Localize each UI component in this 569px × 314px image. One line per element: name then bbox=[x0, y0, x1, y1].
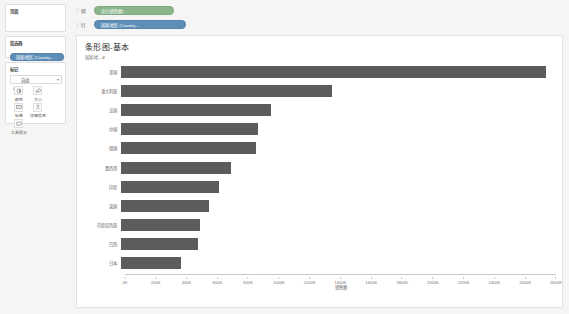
bar-row[interactable]: 法国 bbox=[77, 100, 562, 119]
bar-track bbox=[121, 100, 562, 119]
bar-row-label: 英国 bbox=[77, 203, 121, 209]
bar-row-label: 印度尼西亚 bbox=[77, 222, 121, 228]
color-palette-icon bbox=[14, 86, 23, 95]
rows-shelf-slot[interactable]: 国家/地区 (Country… bbox=[94, 20, 569, 29]
bar[interactable] bbox=[121, 123, 258, 135]
x-axis-tick: 0K bbox=[122, 275, 127, 285]
bar-row[interactable]: 中国 bbox=[77, 120, 562, 139]
bar[interactable] bbox=[121, 162, 231, 174]
filters-card: 筛选器 国家/地区 (Country… bbox=[5, 36, 66, 58]
marks-card: 标记 自动 ▾ 颜色 大小 bbox=[5, 62, 66, 124]
x-axis-tick: 1800K bbox=[396, 275, 408, 285]
bar-row-label: 澳大利亚 bbox=[77, 88, 121, 94]
x-axis-tick: 600K bbox=[213, 275, 223, 285]
bar-row-label: 德国 bbox=[77, 145, 121, 151]
marks-button-detail[interactable]: 详细信息 bbox=[28, 103, 47, 119]
x-axis-tick: 1600K bbox=[365, 275, 377, 285]
marks-button-label-label: 标签 bbox=[15, 112, 23, 118]
x-axis-tick: 2400K bbox=[489, 275, 501, 285]
columns-shelf-text: 列 bbox=[81, 8, 86, 14]
y-axis-header: 国家/地…₽ bbox=[77, 52, 562, 60]
x-axis-tick: 1000K bbox=[273, 275, 285, 285]
pill-country-region[interactable]: 国家/地区 (Country… bbox=[94, 20, 186, 29]
bar[interactable] bbox=[121, 85, 332, 97]
chevron-down-icon[interactable]: ▾ bbox=[57, 77, 59, 82]
size-icon bbox=[33, 86, 42, 95]
bar[interactable] bbox=[121, 142, 256, 154]
marks-button-color[interactable]: 颜色 bbox=[9, 86, 28, 102]
bar-track bbox=[121, 216, 562, 235]
visualization-pane[interactable]: 条形图-基本 国家/地…₽ 美国澳大利亚法国中国德国墨西哥印度英国印度尼西亚巴西… bbox=[76, 35, 563, 308]
bar-track bbox=[121, 139, 562, 158]
bar-row[interactable]: 澳大利亚 bbox=[77, 81, 562, 100]
x-axis-tick: 400K bbox=[182, 275, 192, 285]
x-axis-title: 销售额 bbox=[335, 284, 347, 290]
grip-icon bbox=[76, 22, 79, 27]
columns-shelf[interactable]: 列 总计(销售额) bbox=[76, 5, 569, 16]
bar[interactable] bbox=[121, 238, 198, 250]
pages-card: 页面 bbox=[5, 4, 66, 32]
x-axis-tick: 800K bbox=[243, 275, 253, 285]
marks-button-size[interactable]: 大小 bbox=[28, 86, 47, 102]
x-axis: 0K200K400K600K800K1000K1200K1400K1600K18… bbox=[125, 274, 556, 295]
bar-row-label: 日本 bbox=[77, 260, 121, 266]
x-axis-tick: 2600K bbox=[519, 275, 531, 285]
filter-pill-country[interactable]: 国家/地区 (Country… bbox=[10, 53, 64, 61]
grip-icon bbox=[76, 8, 79, 13]
marks-button-tooltip[interactable]: 工具提示 bbox=[9, 119, 28, 135]
bar-track bbox=[121, 81, 562, 100]
bar[interactable] bbox=[121, 104, 271, 116]
rows-shelf[interactable]: 行 国家/地区 (Country… bbox=[76, 19, 569, 30]
marks-button-label[interactable]: 标签 bbox=[9, 103, 28, 119]
bar-row[interactable]: 墨西哥 bbox=[77, 158, 562, 177]
columns-shelf-slot[interactable]: 总计(销售额) bbox=[94, 6, 569, 15]
marks-buttons: 颜色 大小 标签 详细 bbox=[6, 84, 65, 136]
bar-row-label: 美国 bbox=[77, 69, 121, 75]
x-axis-tick: 2800K bbox=[550, 275, 562, 285]
bar-track bbox=[121, 158, 562, 177]
bar-track bbox=[121, 177, 562, 196]
bar[interactable] bbox=[121, 66, 546, 78]
bar-track bbox=[121, 254, 562, 273]
label-icon bbox=[14, 103, 23, 112]
marks-button-detail-label: 详细信息 bbox=[30, 112, 46, 118]
bar-track bbox=[121, 196, 562, 215]
bar-row[interactable]: 印度尼西亚 bbox=[77, 216, 562, 235]
bar[interactable] bbox=[121, 181, 219, 193]
pill-sum-sales[interactable]: 总计(销售额) bbox=[94, 6, 174, 15]
bar[interactable] bbox=[121, 219, 200, 231]
marks-card-title: 标记 bbox=[6, 63, 65, 73]
bar-row-label: 中国 bbox=[77, 126, 121, 132]
marks-button-tooltip-label: 工具提示 bbox=[11, 129, 27, 135]
pages-card-title: 页面 bbox=[6, 5, 65, 15]
x-axis-tick: 200K bbox=[151, 275, 161, 285]
marks-button-color-label: 颜色 bbox=[15, 96, 23, 102]
marks-type-selector[interactable]: 自动 ▾ bbox=[10, 75, 62, 84]
bar-track bbox=[121, 62, 562, 81]
bar-row[interactable]: 印度 bbox=[77, 177, 562, 196]
bar-row-label: 法国 bbox=[77, 107, 121, 113]
bar-track bbox=[121, 120, 562, 139]
bar[interactable] bbox=[121, 257, 181, 269]
chart-title: 条形图-基本 bbox=[77, 36, 562, 52]
bar-mark-icon bbox=[13, 77, 19, 83]
bar-row-label: 印度 bbox=[77, 184, 121, 190]
bar-rows: 美国澳大利亚法国中国德国墨西哥印度英国印度尼西亚巴西日本 bbox=[77, 62, 562, 274]
bar-row-label: 巴西 bbox=[77, 241, 121, 247]
bar-row[interactable]: 美国 bbox=[77, 62, 562, 81]
bar-track bbox=[121, 235, 562, 254]
bar-row[interactable]: 英国 bbox=[77, 196, 562, 215]
rows-shelf-label: 行 bbox=[76, 22, 94, 28]
bar[interactable] bbox=[121, 200, 209, 212]
tableau-worksheet: 页面 筛选器 国家/地区 (Country… 标记 自动 ▾ 颜色 bbox=[0, 0, 569, 314]
x-axis-tick: 1200K bbox=[304, 275, 316, 285]
left-sidebar: 页面 筛选器 国家/地区 (Country… 标记 自动 ▾ 颜色 bbox=[0, 0, 70, 314]
shelves: 列 总计(销售额) 行 国家/地区 (Country… bbox=[70, 0, 569, 35]
x-axis-tick: 2200K bbox=[458, 275, 470, 285]
detail-icon bbox=[33, 103, 42, 112]
bar-row[interactable]: 巴西 bbox=[77, 235, 562, 254]
rows-shelf-text: 行 bbox=[81, 22, 86, 28]
bar-row[interactable]: 日本 bbox=[77, 254, 562, 273]
marks-button-size-label: 大小 bbox=[34, 96, 42, 102]
bar-row[interactable]: 德国 bbox=[77, 139, 562, 158]
